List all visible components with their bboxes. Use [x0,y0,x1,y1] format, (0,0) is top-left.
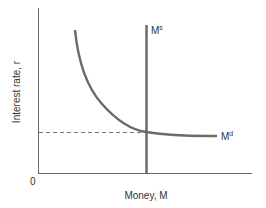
ms-label: Ms [151,24,163,36]
origin-label: 0 [30,176,36,187]
md-label: Md [221,130,233,142]
x-axis-label: Money, M [124,190,167,201]
y-axis-label: Interest rate, r [11,60,22,123]
money-market-diagram: Ms Md 0 Money, M Interest rate, r [0,0,266,208]
